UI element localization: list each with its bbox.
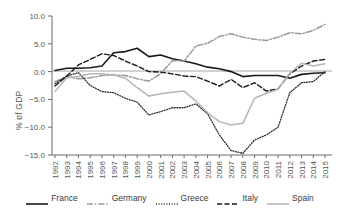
legend-key-italy-icon	[217, 194, 239, 202]
x-tick-label: 2009	[251, 160, 260, 178]
legend-key-spain-icon	[267, 194, 289, 202]
plot-area: 10.05.00.0−5.0−10.0−15.0 199219931994199…	[0, 0, 340, 212]
legend-label: Germany	[112, 193, 147, 203]
x-tick-label: 1996	[98, 160, 107, 178]
series-line-greece	[55, 72, 325, 154]
legend-key-germany-icon	[87, 194, 109, 202]
legend-key-greece-icon	[156, 194, 178, 202]
x-tick-label: 2010	[262, 160, 271, 178]
series-line-spain	[55, 63, 325, 125]
x-tick-label: 2011	[274, 160, 283, 178]
x-tick-label: 2002	[168, 160, 177, 178]
legend-item-germany[interactable]: Germany	[87, 193, 147, 203]
x-tick-label: 2008	[239, 160, 248, 178]
y-axis-ticks: 10.05.00.0−5.0−10.0−15.0	[25, 12, 52, 160]
series-line-germany	[55, 24, 325, 81]
x-axis-tick-labels: 1992199319941995199619971998199920002001…	[51, 160, 330, 178]
legend-key-france-icon	[26, 194, 48, 202]
legend-item-spain[interactable]: Spain	[267, 193, 314, 203]
y-tick-label: 0.0	[34, 68, 46, 77]
legend-label: Italy	[242, 193, 258, 203]
x-tick-label: 1999	[133, 160, 142, 178]
series-line-italy	[55, 54, 325, 91]
legend-item-france[interactable]: France	[26, 193, 77, 203]
chart-legend: FranceGermanyGreeceItalySpain	[0, 188, 340, 208]
x-tick-label: 2001	[157, 160, 166, 178]
legend-label: Spain	[292, 193, 314, 203]
x-tick-label: 2000	[145, 160, 154, 178]
x-tick-label: 2006	[215, 160, 224, 178]
x-tick-label: 2007	[227, 160, 236, 178]
legend-item-greece[interactable]: Greece	[156, 193, 209, 203]
x-tick-label: 2004	[192, 160, 201, 178]
legend-item-italy[interactable]: Italy	[217, 193, 258, 203]
data-series-group	[55, 24, 325, 153]
x-tick-label: 1993	[63, 160, 72, 178]
y-tick-label: −15.0	[25, 151, 46, 160]
x-tick-label: 2014	[309, 160, 318, 178]
x-tick-label: 2013	[298, 160, 307, 178]
x-tick-label: 1994	[74, 160, 83, 178]
x-tick-label: 2012	[286, 160, 295, 178]
y-tick-label: 5.0	[34, 40, 46, 49]
x-tick-label: 2005	[204, 160, 213, 178]
x-tick-label: 1998	[121, 160, 130, 178]
legend-label: Greece	[181, 193, 209, 203]
x-tick-label: 1995	[86, 160, 95, 178]
y-tick-label: −5.0	[29, 95, 45, 104]
y-tick-label: 10.0	[29, 12, 45, 21]
legend-label: France	[51, 193, 77, 203]
chart-container: % of GDP 10.05.00.0−5.0−10.0−15.0 199219…	[0, 0, 340, 212]
y-tick-label: −10.0	[25, 123, 46, 132]
x-tick-label: 1992	[51, 160, 60, 178]
x-tick-label: 1997	[110, 160, 119, 178]
x-tick-label: 2015	[321, 160, 330, 178]
x-tick-label: 2003	[180, 160, 189, 178]
